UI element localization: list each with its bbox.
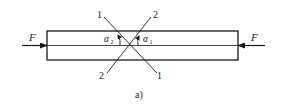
svg-text:1: 1 xyxy=(150,39,153,45)
section-1-top-label: 1 xyxy=(97,9,102,20)
section-line-1 xyxy=(104,17,157,73)
force-left-label: F xyxy=(28,31,36,43)
svg-text:2: 2 xyxy=(111,39,114,45)
section-2-bottom-label: 2 xyxy=(99,70,104,81)
svg-text:α: α xyxy=(143,34,149,44)
bar-compression-diagram: F F 1 1 2 2 α 2 α 1 a) xyxy=(0,0,283,108)
angle-1-label: α 1 xyxy=(143,34,153,45)
angle-2-label: α 2 xyxy=(104,34,114,45)
figure-caption: a) xyxy=(135,89,143,101)
section-1-bottom-label: 1 xyxy=(157,70,162,81)
svg-text:α: α xyxy=(104,34,110,44)
section-line-2 xyxy=(107,17,151,73)
angle-1-arc-icon xyxy=(138,36,139,46)
force-right-label: F xyxy=(250,31,258,43)
section-2-top-label: 2 xyxy=(153,9,158,20)
angle-2-arc-icon xyxy=(118,35,120,46)
